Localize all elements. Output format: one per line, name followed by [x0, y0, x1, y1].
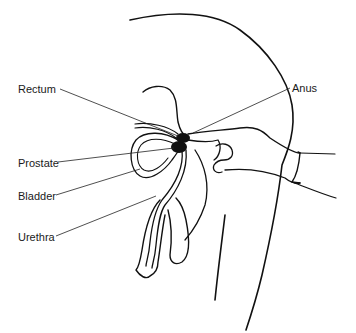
leader-anus — [193, 88, 290, 133]
leader-prostate — [58, 148, 174, 162]
body-outline — [130, 14, 293, 330]
label-bladder: Bladder — [18, 190, 56, 202]
thigh-line — [215, 215, 225, 300]
label-rectum: Rectum — [18, 83, 56, 95]
dre-anatomy-diagram: Rectum Anus Prostate Bladder Urethra — [0, 0, 356, 333]
label-prostate: Prostate — [18, 157, 59, 169]
scrotum-outline — [168, 198, 189, 264]
perineum-line — [185, 150, 207, 240]
label-urethra: Urethra — [18, 231, 55, 243]
bladder-outline — [131, 133, 182, 177]
gloved-hand — [188, 127, 300, 153]
buttock-fold — [143, 86, 186, 136]
glove-cuff — [292, 152, 300, 183]
leader-bladder — [56, 169, 140, 195]
leader-rectum — [60, 89, 178, 136]
leader-urethra — [56, 196, 156, 236]
label-anus: Anus — [292, 82, 317, 94]
